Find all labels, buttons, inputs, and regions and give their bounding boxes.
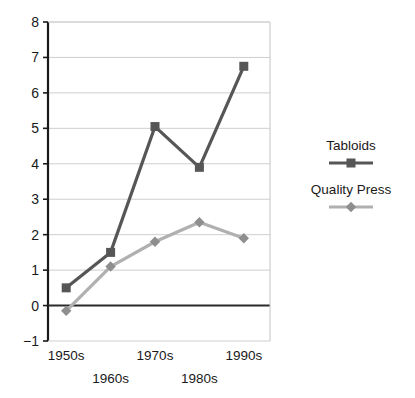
data-point-marker xyxy=(62,283,71,292)
y-tick-label: 6 xyxy=(31,85,39,101)
series-quality-press xyxy=(61,217,249,316)
data-point-marker xyxy=(195,163,204,172)
x-tick-label: 1950s xyxy=(48,348,85,363)
chart-canvas: −1012345678 1950s1960s1970s1980s1990s Ta… xyxy=(0,0,415,398)
y-tick-label: 5 xyxy=(31,120,39,136)
y-tick-label: 8 xyxy=(31,14,39,30)
legend-label: Quality Press xyxy=(311,182,392,197)
y-tick-label: 1 xyxy=(31,262,39,278)
data-point-marker xyxy=(194,217,204,227)
data-point-marker xyxy=(239,62,248,71)
x-tick-labels: 1950s1960s1970s1980s1990s xyxy=(48,348,263,386)
data-series xyxy=(61,62,249,316)
y-tick-labels: −1012345678 xyxy=(23,14,48,349)
x-tick-label: 1960s xyxy=(92,371,129,386)
line-chart-figure: −1012345678 1950s1960s1970s1980s1990s Ta… xyxy=(0,0,415,398)
y-tick-label: 0 xyxy=(31,298,39,314)
legend-label: Tabloids xyxy=(326,138,376,153)
legend-marker xyxy=(346,202,356,212)
y-tick-label: 7 xyxy=(31,49,39,65)
x-tick-label: 1970s xyxy=(137,348,174,363)
data-point-marker xyxy=(106,248,115,257)
data-point-marker xyxy=(151,122,160,131)
y-tick-label: 3 xyxy=(31,191,39,207)
y-tick-label: 4 xyxy=(31,156,39,172)
chart-legend: TabloidsQuality Press xyxy=(311,138,392,212)
plot-border xyxy=(48,22,270,341)
y-tick-label: 2 xyxy=(31,227,39,243)
legend-marker xyxy=(347,159,356,168)
series-line xyxy=(66,66,244,288)
grid-lines xyxy=(48,22,270,306)
x-tick-label: 1990s xyxy=(225,348,262,363)
series-tabloids xyxy=(62,62,249,293)
x-tick-label: 1980s xyxy=(181,371,218,386)
y-tick-label: −1 xyxy=(23,333,39,349)
